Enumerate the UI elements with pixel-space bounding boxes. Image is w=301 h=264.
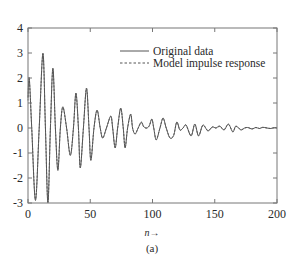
y-axis-tick-labels: 43210-1-2-3 bbox=[13, 21, 23, 210]
x-tick-label: 0 bbox=[25, 207, 31, 221]
x-tick-label: 50 bbox=[84, 207, 96, 221]
y-tick-label: 3 bbox=[17, 46, 23, 60]
y-tick-label: 1 bbox=[17, 96, 23, 110]
series-line-original bbox=[28, 53, 277, 203]
x-tick-label: 150 bbox=[206, 207, 224, 221]
series-layer bbox=[28, 53, 277, 203]
y-tick-label: -3 bbox=[13, 196, 23, 210]
y-tick-label: 4 bbox=[17, 21, 23, 35]
x-axis-label: n→ bbox=[145, 227, 160, 238]
series-line-model bbox=[28, 54, 277, 202]
legend: Original data Model impulse response bbox=[120, 45, 265, 70]
x-tick-label: 100 bbox=[144, 207, 162, 221]
legend-label-model: Model impulse response bbox=[153, 57, 265, 70]
y-tick-label: 2 bbox=[17, 71, 23, 85]
line-chart: 43210-1-2-3 050100150200 Original data M… bbox=[0, 0, 301, 264]
figure-caption: (a) bbox=[146, 242, 159, 255]
y-tick-label: -1 bbox=[13, 146, 23, 160]
y-tick-label: 0 bbox=[17, 121, 23, 135]
figure: 43210-1-2-3 050100150200 Original data M… bbox=[0, 0, 301, 264]
y-tick-label: -2 bbox=[13, 171, 23, 185]
x-axis-tick-labels: 050100150200 bbox=[25, 207, 286, 221]
x-tick-label: 200 bbox=[268, 207, 286, 221]
